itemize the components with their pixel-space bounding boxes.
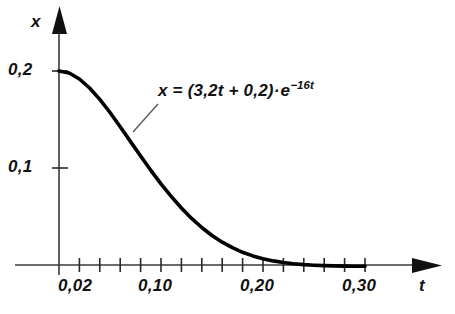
x-tick-label-1: 0,10 [138,277,172,294]
plot-canvas [0,0,455,314]
y-axis-label: x [31,13,41,30]
y-tick-label-1: 0,1 [8,158,33,175]
curve-equation-annotation: x = (3,2t + 0,2)·e−16t [158,80,314,99]
equation-exponent: −16t [290,79,314,91]
equation-left-side: x = (3,2t + 0,2) [158,81,274,100]
x-tick-label-2: 0,20 [240,277,274,294]
equation-multiplication-dot: · [274,81,281,100]
x-axis-arrowhead [412,258,442,273]
x-tick-label-3: 0,30 [342,277,376,294]
x-tick-label-0: 0,02 [58,277,92,294]
annotation-leader-line [133,104,158,132]
curve-decaying-exponential [59,71,365,266]
y-axis-ticks [52,71,68,168]
y-tick-label-0: 0,2 [8,61,33,78]
x-axis-label: t [419,277,425,294]
figure-container: x t 0,2 0,1 0,02 0,10 0,20 0,30 x = (3,2… [0,0,455,314]
equation-exponential-base: e [281,81,291,100]
y-axis-arrowhead [52,6,67,34]
